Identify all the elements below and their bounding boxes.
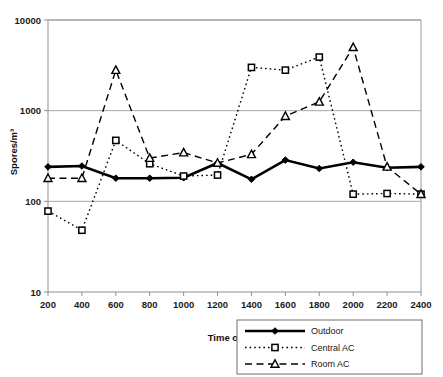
chart-legend: OutdoorCentral ACRoom AC — [237, 320, 422, 374]
data-point-room-ac-7 — [281, 112, 289, 119]
data-point-room-ac-4 — [180, 148, 188, 155]
series-line-central-ac — [48, 57, 421, 230]
x-tick-label: 1800 — [309, 299, 330, 310]
x-tick-label: 1600 — [275, 299, 296, 310]
chart-plot-svg: 10000100010010 2004006008001000120014001… — [0, 0, 443, 377]
x-tick-label: 2400 — [410, 299, 431, 310]
data-point-room-ac-2 — [112, 66, 120, 73]
data-point-central-ac-10 — [384, 190, 390, 196]
data-point-room-ac-8 — [315, 98, 323, 105]
y-tick-label: 1000 — [20, 105, 41, 116]
data-point-central-ac-0 — [45, 208, 51, 214]
data-point-central-ac-6 — [248, 64, 254, 70]
data-point-central-ac-9 — [350, 191, 356, 197]
y-axis-title: Spores/m³ — [8, 129, 19, 175]
data-point-room-ac-1 — [78, 174, 86, 181]
data-point-outdoor-1 — [79, 163, 86, 170]
legend-label-room-ac: Room AC — [311, 359, 350, 369]
x-tick-labels: 2004006008001000120014001600180020002200… — [40, 299, 432, 310]
x-tick-label: 200 — [40, 299, 56, 310]
series-central-ac — [45, 54, 424, 233]
series-outdoor — [45, 157, 425, 183]
data-point-outdoor-3 — [146, 175, 153, 182]
data-point-central-ac-1 — [79, 227, 85, 233]
plot-frame — [48, 20, 421, 292]
y-tick-label: 10 — [30, 287, 41, 298]
x-tick-label: 1000 — [173, 299, 194, 310]
x-tick-marks — [48, 292, 421, 296]
data-point-central-ac-legend — [272, 344, 278, 350]
y-tick-label: 10000 — [15, 15, 41, 26]
data-series-layer — [44, 43, 425, 233]
data-point-outdoor-11 — [418, 164, 425, 171]
data-point-central-ac-8 — [316, 54, 322, 60]
data-point-outdoor-9 — [350, 159, 357, 166]
data-point-central-ac-7 — [282, 67, 288, 73]
data-point-outdoor-2 — [113, 175, 120, 182]
x-tick-label: 2200 — [377, 299, 398, 310]
data-point-central-ac-2 — [113, 137, 119, 143]
x-tick-label: 800 — [142, 299, 158, 310]
y-tick-marks — [44, 20, 48, 292]
data-point-central-ac-5 — [214, 172, 220, 178]
x-tick-label: 1200 — [207, 299, 228, 310]
data-point-room-ac-9 — [349, 43, 357, 50]
data-point-outdoor-0 — [45, 164, 52, 171]
x-tick-label: 1400 — [241, 299, 262, 310]
data-point-outdoor-8 — [316, 165, 323, 172]
legend-label-central-ac: Central AC — [311, 343, 355, 353]
x-tick-label: 2000 — [343, 299, 364, 310]
x-tick-label: 400 — [74, 299, 90, 310]
data-point-central-ac-4 — [181, 173, 187, 179]
series-line-outdoor — [48, 160, 421, 179]
x-tick-label: 600 — [108, 299, 124, 310]
legend-label-outdoor: Outdoor — [311, 326, 344, 336]
y-tick-label: 100 — [25, 196, 41, 207]
chart-figure: 10000100010010 2004006008001000120014001… — [0, 0, 443, 377]
